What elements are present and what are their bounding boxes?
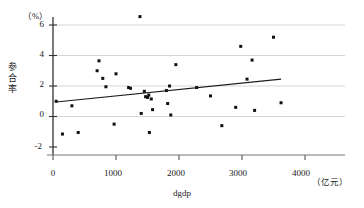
data-point xyxy=(101,77,104,80)
data-point xyxy=(138,15,141,18)
data-point xyxy=(150,97,153,100)
data-point xyxy=(77,131,80,134)
data-point xyxy=(253,109,256,112)
data-point xyxy=(209,94,212,97)
data-point xyxy=(234,106,237,109)
data-point xyxy=(97,59,100,62)
data-point xyxy=(96,69,99,72)
data-point xyxy=(70,104,73,107)
x-axis-ticks xyxy=(53,155,305,160)
data-point xyxy=(169,113,172,116)
data-point xyxy=(104,85,107,88)
data-point xyxy=(251,59,254,62)
data-point xyxy=(140,112,143,115)
data-point xyxy=(174,63,177,66)
data-point xyxy=(129,87,132,90)
data-point xyxy=(246,78,249,81)
data-point xyxy=(113,123,116,126)
data-points xyxy=(55,15,283,135)
data-point xyxy=(151,108,154,111)
data-point xyxy=(115,72,118,75)
data-point xyxy=(61,133,64,136)
data-point xyxy=(147,94,150,97)
data-point xyxy=(166,102,169,105)
data-point xyxy=(220,124,223,127)
data-point xyxy=(239,45,242,48)
scatter-chart: （%） 参 合 率 dgdp （亿元） 6 4 2 0 -2 0 1000 20… xyxy=(0,0,364,208)
plot-area xyxy=(0,0,364,208)
data-point xyxy=(148,131,151,134)
data-point xyxy=(168,85,171,88)
data-point xyxy=(280,101,283,104)
trend-line xyxy=(56,79,281,102)
data-point xyxy=(272,36,275,39)
